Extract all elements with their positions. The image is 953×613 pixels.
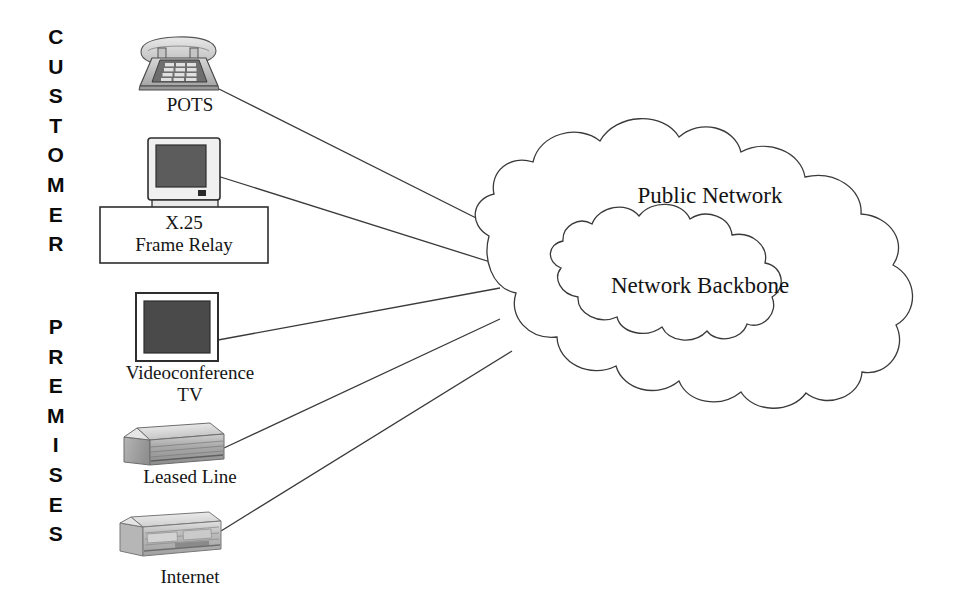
device-label-pots: POTS	[120, 94, 260, 116]
diagram-vector-layer	[0, 0, 953, 613]
device-label-x25-frame-relay: X.25 Frame Relay	[104, 212, 264, 256]
device-label-internet: Internet	[110, 566, 270, 588]
network-diagram-canvas: C U S T O M E R P R E M I S E S POTS X.2…	[0, 0, 953, 613]
public-network-label: Public Network	[560, 183, 860, 209]
router-box-icon	[124, 423, 224, 465]
telephone-icon	[139, 37, 219, 90]
premises-vertical-label: P R E M I S E S	[36, 312, 76, 549]
device-label-leased-line: Leased Line	[110, 466, 270, 488]
customer-vertical-label: C U S T O M E R	[36, 22, 76, 259]
network-backbone-label: Network Backbone	[545, 273, 855, 299]
rack-router-icon	[120, 512, 221, 556]
television-icon	[136, 293, 218, 361]
device-label-videoconference-tv: Videoconference TV	[90, 362, 290, 406]
connection-line-videotv	[218, 288, 500, 340]
